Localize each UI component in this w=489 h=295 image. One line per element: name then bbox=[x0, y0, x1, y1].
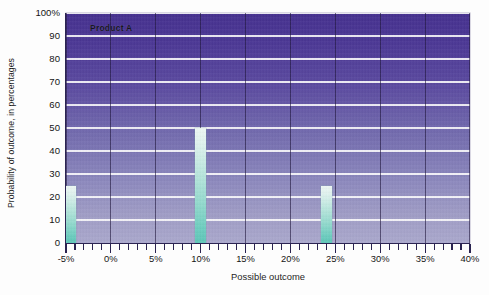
x-tick-minor bbox=[182, 244, 183, 250]
gridline-horizontal bbox=[66, 173, 470, 174]
x-tick-minor bbox=[236, 244, 237, 250]
x-tick-label: 40% bbox=[450, 253, 489, 264]
x-tick-minor bbox=[146, 244, 147, 250]
x-tick-minor bbox=[362, 244, 363, 250]
x-tick-minor bbox=[83, 244, 84, 250]
gridline-horizontal bbox=[66, 35, 470, 36]
x-tick-minor bbox=[317, 244, 318, 250]
x-tick-minor bbox=[389, 244, 390, 250]
x-tick-minor bbox=[443, 244, 444, 250]
x-tick-major bbox=[335, 244, 336, 253]
y-tick-label: 100% bbox=[14, 7, 60, 18]
x-tick-minor bbox=[299, 244, 300, 250]
y-tick-label: 90 bbox=[14, 30, 60, 41]
bar bbox=[321, 186, 332, 244]
gridline-horizontal bbox=[66, 150, 470, 151]
x-tick-minor bbox=[353, 244, 354, 250]
y-tick-label: 50 bbox=[14, 122, 60, 133]
gridline-horizontal bbox=[66, 81, 470, 82]
x-tick-minor bbox=[344, 244, 345, 250]
x-tick-minor bbox=[227, 244, 228, 250]
gridline-vertical bbox=[290, 13, 291, 243]
x-axis-line bbox=[66, 243, 470, 244]
x-tick-major bbox=[425, 244, 426, 253]
gridline-vertical bbox=[425, 13, 426, 243]
y-tick-label: 20 bbox=[14, 191, 60, 202]
x-tick-minor bbox=[101, 244, 102, 250]
gridline-horizontal bbox=[66, 127, 470, 128]
x-tick-minor bbox=[209, 244, 210, 250]
gridline-horizontal bbox=[66, 196, 470, 197]
x-tick-minor bbox=[460, 244, 461, 250]
x-tick-major bbox=[469, 244, 470, 253]
y-axis-line bbox=[65, 13, 66, 244]
x-tick-label: 15% bbox=[226, 253, 266, 264]
x-tick-minor bbox=[398, 244, 399, 250]
x-tick-minor bbox=[137, 244, 138, 250]
plot-area: Product A bbox=[66, 13, 470, 243]
x-tick-minor bbox=[173, 244, 174, 250]
y-tick-label: 60 bbox=[14, 99, 60, 110]
x-tick-label: 25% bbox=[315, 253, 355, 264]
y-tick-label: 10 bbox=[14, 214, 60, 225]
y-tick-label: 30 bbox=[14, 168, 60, 179]
x-tick-minor bbox=[218, 244, 219, 250]
y-axis-tick-labels: 100%9080706050403020100 bbox=[12, 0, 60, 295]
x-tick-minor bbox=[92, 244, 93, 250]
x-tick-label: 20% bbox=[270, 253, 310, 264]
x-tick-label: 10% bbox=[181, 253, 221, 264]
x-tick-minor bbox=[74, 244, 75, 250]
x-tick-minor bbox=[191, 244, 192, 250]
x-tick-minor bbox=[326, 244, 327, 250]
x-tick-minor bbox=[308, 244, 309, 250]
gridline-vertical bbox=[245, 13, 246, 243]
x-tick-minor bbox=[119, 244, 120, 250]
x-tick-major bbox=[110, 244, 111, 253]
x-tick-label: 35% bbox=[405, 253, 445, 264]
gridline-horizontal bbox=[66, 58, 470, 59]
x-tick-major bbox=[380, 244, 381, 253]
x-axis-title: Possible outcome bbox=[66, 271, 470, 282]
x-tick-label: 0% bbox=[91, 253, 131, 264]
gridline-horizontal bbox=[66, 13, 470, 14]
x-tick-major bbox=[65, 244, 66, 253]
x-tick-minor bbox=[254, 244, 255, 250]
gridline-vertical bbox=[335, 13, 336, 243]
gridline-vertical bbox=[380, 13, 381, 243]
bar bbox=[66, 186, 76, 244]
x-tick-minor bbox=[128, 244, 129, 250]
x-tick-minor bbox=[272, 244, 273, 250]
y-tick-label: 40 bbox=[14, 145, 60, 156]
x-tick-minor bbox=[451, 244, 452, 250]
x-tick-major bbox=[200, 244, 201, 253]
x-tick-label: -5% bbox=[46, 253, 86, 264]
gridline-horizontal bbox=[66, 104, 470, 105]
y-tick-label: 70 bbox=[14, 76, 60, 87]
x-tick-minor bbox=[164, 244, 165, 250]
gridline-vertical bbox=[110, 13, 111, 243]
x-tick-minor bbox=[416, 244, 417, 250]
x-tick-minor bbox=[281, 244, 282, 250]
x-tick-minor bbox=[263, 244, 264, 250]
x-tick-major bbox=[155, 244, 156, 253]
gridline-horizontal bbox=[66, 219, 470, 220]
x-tick-minor bbox=[434, 244, 435, 250]
x-tick-label: 30% bbox=[360, 253, 400, 264]
x-tick-minor bbox=[407, 244, 408, 250]
x-tick-major bbox=[290, 244, 291, 253]
x-tick-major bbox=[245, 244, 246, 253]
y-tick-label: 80 bbox=[14, 53, 60, 64]
bar bbox=[195, 128, 206, 243]
gridline-vertical bbox=[155, 13, 156, 243]
x-tick-minor bbox=[371, 244, 372, 250]
chart-figure: Probability of outcome, in percentages 1… bbox=[0, 0, 489, 295]
x-tick-label: 5% bbox=[136, 253, 176, 264]
y-tick-label: 0 bbox=[14, 237, 60, 248]
gridline-vertical bbox=[469, 13, 470, 243]
